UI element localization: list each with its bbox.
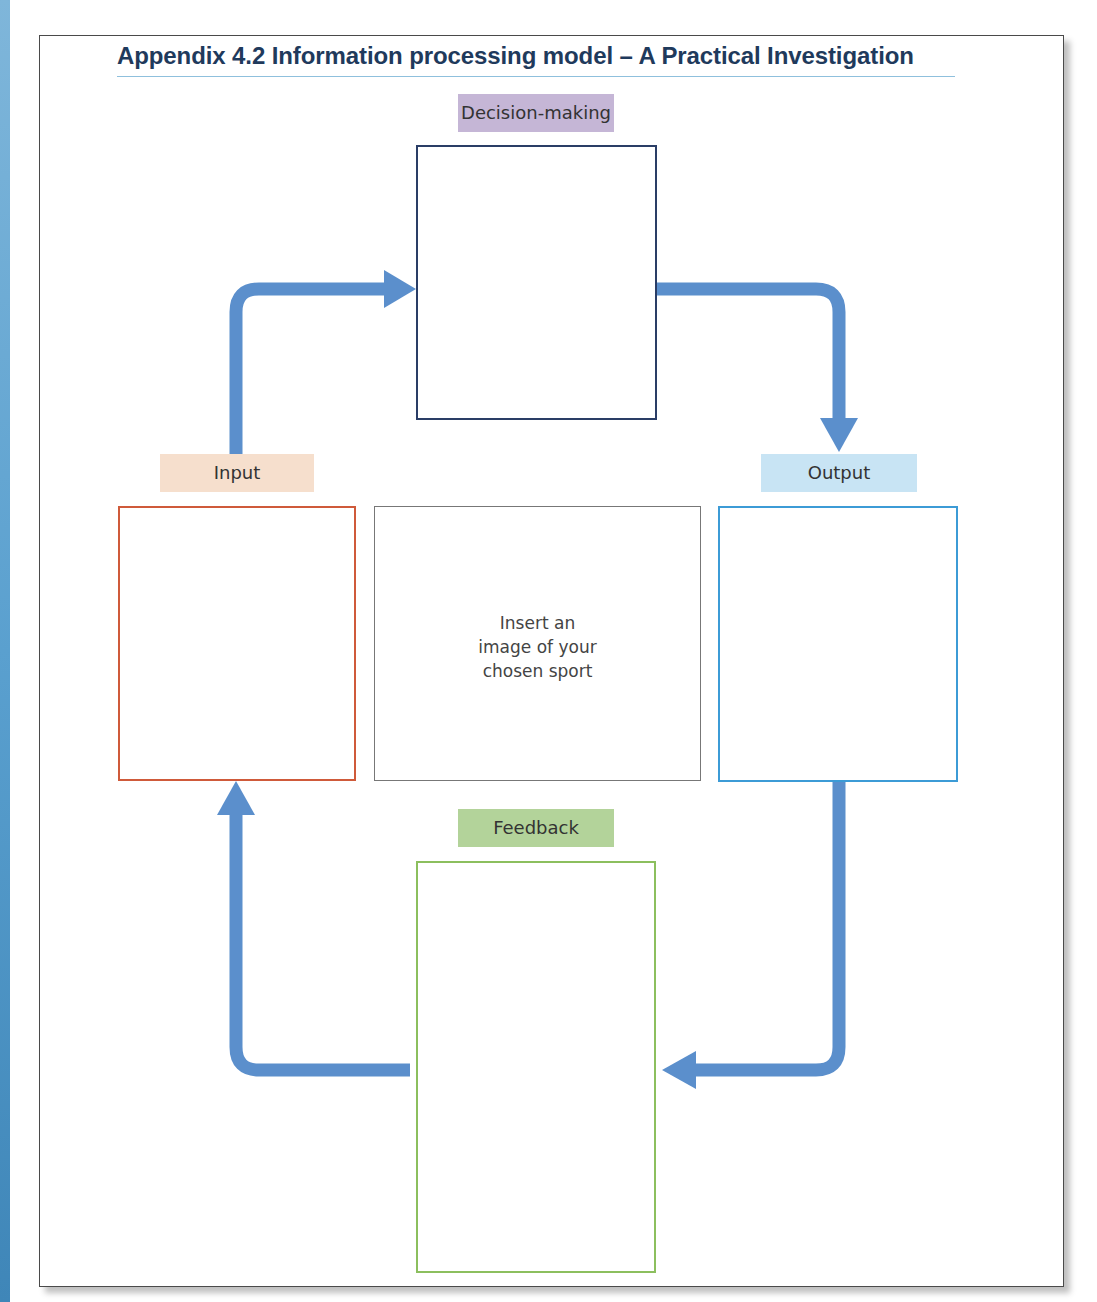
arrowhead-left-icon <box>662 1051 696 1089</box>
arrow-output-to-feedback <box>694 782 839 1070</box>
arrowhead-up-icon <box>217 781 255 815</box>
feedback-box[interactable] <box>416 861 656 1273</box>
arrowhead-down-icon <box>820 418 858 452</box>
image-placeholder-text: Insert an image of your chosen sport <box>375 611 700 683</box>
placeholder-line-1: Insert an <box>375 611 700 635</box>
output-box[interactable] <box>718 506 958 782</box>
arrow-feedback-to-input <box>236 812 410 1070</box>
input-label: Input <box>160 454 314 492</box>
decision-making-box[interactable] <box>416 145 657 420</box>
decision-making-label: Decision-making <box>458 94 614 132</box>
arrow-decision-to-output <box>657 289 839 420</box>
input-box[interactable] <box>118 506 356 781</box>
placeholder-line-2: image of your <box>375 635 700 659</box>
arrow-input-to-decision <box>236 289 388 454</box>
output-label: Output <box>761 454 917 492</box>
feedback-label: Feedback <box>458 809 614 847</box>
sport-image-placeholder[interactable]: Insert an image of your chosen sport <box>374 506 701 781</box>
placeholder-line-3: chosen sport <box>375 659 700 683</box>
arrowhead-right-icon <box>384 270 416 308</box>
